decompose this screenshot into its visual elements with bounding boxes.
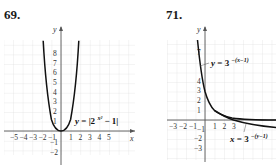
x-tick: 5 [107, 133, 111, 142]
y-axis-arrow-icon [59, 26, 63, 31]
x-tick: 2 [223, 122, 227, 131]
x-tick: −3 [29, 133, 37, 142]
y-tick: 2 [197, 96, 201, 105]
x-tick: −4 [20, 133, 28, 142]
x-axis-label-69: x [129, 134, 134, 143]
y-axis-label-71: y [196, 25, 201, 34]
x-tick: 1 [69, 133, 73, 142]
graph-71: y −3 −2 −1 1 2 3 7 4 3 2 1 −1 −2 −3 y = … [167, 25, 276, 162]
graph-69: x y −5 −4 −3 −2 −1 1 2 3 4 5 8 7 6 5 4 3… [4, 25, 135, 165]
y-tick: 2 [53, 107, 57, 116]
y-tick: 8 [53, 49, 57, 58]
y-tick: −2 [194, 134, 202, 143]
x-tick: −2 [39, 133, 47, 142]
x-tick: −3 [169, 122, 177, 131]
x-tick: 3 [232, 122, 236, 131]
y-tick: 4 [197, 77, 201, 86]
y-tick: 3 [53, 97, 57, 106]
x-tick: 4 [98, 133, 102, 142]
x-tick: −1 [189, 122, 197, 131]
y-tick: 4 [53, 88, 57, 97]
y-tick: −2 [50, 148, 58, 157]
y-tick: 5 [53, 78, 57, 87]
graphs-canvas: x y −5 −4 −3 −2 −1 1 2 3 4 5 8 7 6 5 4 3… [0, 0, 276, 168]
x-tick: 2 [79, 133, 83, 142]
y-tick: 6 [53, 68, 57, 77]
y-tick: −1 [50, 138, 58, 147]
x-tick: 3 [88, 133, 92, 142]
y-tick: −1 [197, 125, 205, 134]
y-tick: 3 [197, 86, 201, 95]
x-tick: −2 [179, 122, 187, 131]
y-axis-arrow-icon [203, 26, 207, 31]
y-tick: 7 [53, 59, 57, 68]
y-tick: 1 [197, 106, 201, 115]
x-tick: 1 [213, 122, 217, 131]
x-tick: −5 [10, 133, 18, 142]
y-tick: −3 [194, 144, 202, 153]
y-axis-label-69: y [52, 25, 57, 34]
